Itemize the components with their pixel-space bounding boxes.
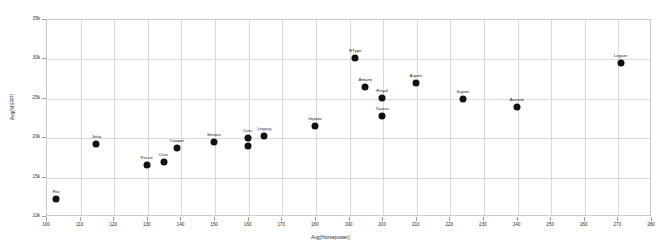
data-point-marker[interactable] <box>93 140 100 147</box>
data-point-marker[interactable] <box>379 112 386 119</box>
x-gridline <box>282 20 283 215</box>
x-axis-tick <box>315 217 316 221</box>
y-axis-tick <box>42 19 46 20</box>
data-point-marker[interactable] <box>617 60 624 67</box>
data-point-label: Signet <box>457 89 469 94</box>
x-axis-tick <box>483 217 484 221</box>
data-point-label: Regal <box>376 88 387 93</box>
y-gridline <box>47 138 650 139</box>
x-axis-tick <box>214 217 215 221</box>
x-axis-tick-label: 210 <box>412 222 420 228</box>
data-point-marker[interactable] <box>160 158 167 165</box>
x-axis-tick-label: 270 <box>614 222 622 228</box>
x-axis-tick-label: 110 <box>76 222 83 228</box>
x-axis-tick <box>651 217 652 221</box>
data-point-marker[interactable] <box>53 195 60 202</box>
y-axis-tick <box>42 216 46 217</box>
y-gridline <box>47 178 650 179</box>
x-axis-tick-label: 260 <box>580 222 588 228</box>
y-axis-tick-label: 25k <box>28 95 40 101</box>
x-axis-tick-label: 200 <box>378 222 386 228</box>
x-axis-tick <box>113 217 114 221</box>
x-axis-tick <box>382 217 383 221</box>
x-axis-tick <box>550 217 551 221</box>
x-axis-tick-label: 120 <box>109 222 117 228</box>
x-axis-tick <box>416 217 417 221</box>
x-axis-tick-label: 230 <box>479 222 487 228</box>
data-point-label: Legser <box>614 53 627 58</box>
data-point-marker[interactable] <box>244 134 251 141</box>
x-gridline <box>518 20 519 215</box>
x-axis-tick <box>80 217 81 221</box>
y-gridline <box>47 59 650 60</box>
x-gridline <box>249 20 250 215</box>
data-point-marker[interactable] <box>311 123 318 130</box>
x-axis-tick-label: 240 <box>513 222 521 228</box>
data-point-marker[interactable] <box>174 145 181 152</box>
x-axis-tick <box>617 217 618 221</box>
data-point-label: Impala <box>308 116 321 121</box>
x-axis-tick <box>281 217 282 221</box>
x-gridline <box>450 20 451 215</box>
y-axis-tick-label: 20k <box>28 134 40 140</box>
x-gridline <box>484 20 485 215</box>
x-gridline <box>181 20 182 215</box>
y-axis-tick <box>42 98 46 99</box>
x-gridline <box>551 20 552 215</box>
x-axis-tick-label: 130 <box>143 222 151 228</box>
x-axis-tick <box>46 217 47 221</box>
x-axis-tick-label: 190 <box>345 222 353 228</box>
x-axis-tick <box>349 217 350 221</box>
x-axis-tick <box>449 217 450 221</box>
x-axis-tick <box>147 217 148 221</box>
data-point-label: Civic <box>159 152 169 157</box>
x-axis-tick-label: 140 <box>177 222 185 228</box>
x-axis-tick <box>248 217 249 221</box>
data-point-label: Legacy <box>257 126 271 131</box>
data-point-label: Rio <box>53 189 60 194</box>
x-axis-tick <box>517 217 518 221</box>
data-point-marker[interactable] <box>143 161 150 168</box>
y-axis-tick-label: 30k <box>28 55 40 61</box>
data-point-marker[interactable] <box>352 55 359 62</box>
x-gridline <box>81 20 82 215</box>
x-axis-tick-label: 280 <box>647 222 655 228</box>
x-axis-tick-label: 250 <box>546 222 554 228</box>
x-axis-title: Avg(Horsepower) <box>0 234 661 240</box>
x-axis-tick-label: 170 <box>277 222 285 228</box>
data-point-marker[interactable] <box>412 79 419 86</box>
data-point-marker[interactable] <box>211 138 218 145</box>
y-axis-tick <box>42 58 46 59</box>
data-point-marker[interactable] <box>513 104 520 111</box>
x-axis-tick-label: 150 <box>210 222 218 228</box>
y-axis-tick <box>42 137 46 138</box>
data-point-marker[interactable] <box>362 83 369 90</box>
x-axis-tick-label: 160 <box>244 222 252 228</box>
data-point-marker[interactable] <box>244 142 251 149</box>
data-point-marker[interactable] <box>261 132 268 139</box>
y-axis-title: Avg(MSRP) <box>9 77 15 137</box>
scatter-chart: Avg(MSRP) Avg(Horsepower) 10011012013014… <box>0 0 661 251</box>
x-axis-tick-label: 100 <box>42 222 50 228</box>
x-axis-tick <box>180 217 181 221</box>
x-gridline <box>417 20 418 215</box>
data-point-label: Civic <box>243 128 253 133</box>
data-point-label: Focus <box>141 155 153 160</box>
data-point-marker[interactable] <box>379 94 386 101</box>
x-axis-tick-label: 180 <box>311 222 319 228</box>
data-point-label: Aspen <box>409 73 421 78</box>
data-point-label: Cooper <box>170 138 184 143</box>
x-gridline <box>585 20 586 215</box>
data-point-label: Taurus <box>376 106 389 111</box>
x-gridline <box>114 20 115 215</box>
y-axis-tick <box>42 177 46 178</box>
data-point-label: Accord <box>510 97 524 102</box>
x-gridline <box>618 20 619 215</box>
y-gridline <box>47 99 650 100</box>
y-axis-tick-label: 15k <box>28 174 40 180</box>
x-gridline <box>148 20 149 215</box>
data-point-marker[interactable] <box>459 96 466 103</box>
data-point-label: Amanti <box>358 77 372 82</box>
y-axis-tick-label: 35k <box>28 16 40 22</box>
x-gridline <box>215 20 216 215</box>
